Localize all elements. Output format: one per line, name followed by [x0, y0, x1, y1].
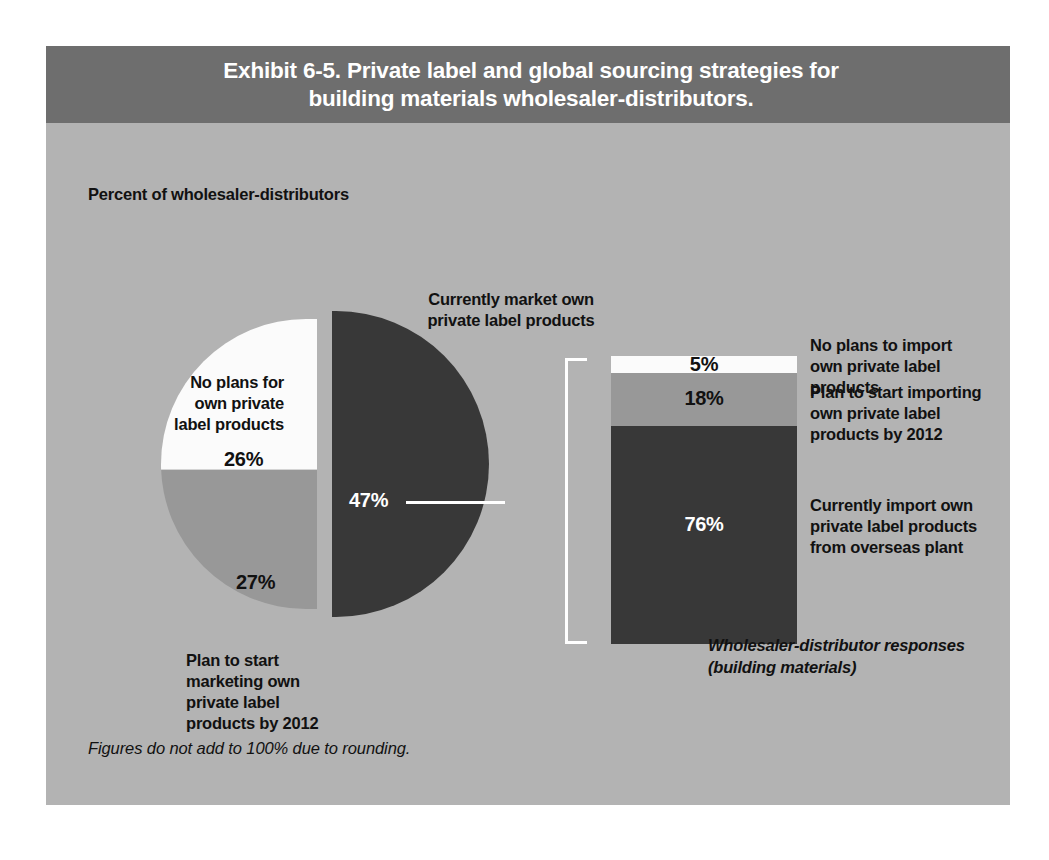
pie-label-plan-to-start-line-1: Plan to start [186, 650, 416, 671]
bar-segment-currently-import: 76% [611, 426, 797, 644]
bar-label-currently-import-line-3: from overseas plant [810, 537, 977, 558]
exhibit-header: Exhibit 6-5. Private label and global so… [46, 46, 1010, 123]
pie-label-no-plans-line-3: label products [98, 414, 284, 435]
pie-label-no-plans: No plans for own private label products [98, 372, 284, 435]
chart-caption-line-2: (building materials) [708, 656, 965, 678]
pie-label-no-plans-line-2: own private [98, 393, 284, 414]
chart-subtitle: Percent of wholesaler-distributors [88, 185, 349, 204]
pie-label-currently-market: Currently market own private label produ… [376, 289, 646, 331]
leader-line [406, 501, 505, 504]
bar-segment-plan-to-start-importing: 18% [611, 373, 797, 426]
pie-slice-currently-market [332, 311, 489, 617]
bar-label-plan-to-start-importing-line-3: products by 2012 [810, 424, 981, 445]
pie-label-plan-to-start: Plan to start marketing own private labe… [186, 650, 416, 734]
title-line-1: Exhibit 6-5. Private label and global so… [46, 57, 1010, 85]
bar-value-plan-to-start-importing: 18% [611, 387, 797, 410]
stacked-bar-chart: 5% 18% 76% [611, 356, 797, 644]
bar-label-currently-import-line-1: Currently import own [810, 495, 977, 516]
pie-value-no-plans: 26% [224, 448, 263, 471]
bar-label-plan-to-start-importing-line-1: Plan to start importing [810, 382, 981, 403]
page-title: Exhibit 6-5. Private label and global so… [46, 57, 1010, 113]
chart-caption: Wholesaler-distributor responses (buildi… [708, 634, 965, 678]
pie-label-plan-to-start-line-3: private label [186, 692, 416, 713]
title-line-2: building materials wholesaler-distributo… [46, 85, 1010, 113]
bar-label-currently-import-line-2: private label products [810, 516, 977, 537]
bar-segment-no-plans-to-import: 5% [611, 356, 797, 373]
pie-label-plan-to-start-line-4: products by 2012 [186, 713, 416, 734]
pie-label-no-plans-line-1: No plans for [98, 372, 284, 393]
bar-label-no-plans-to-import-line-1: No plans to import [810, 335, 1010, 356]
pie-value-currently-market: 47% [349, 489, 388, 512]
bar-value-currently-import: 76% [611, 513, 797, 536]
chart-caption-line-1: Wholesaler-distributor responses [708, 634, 965, 656]
pie-label-currently-market-line-1: Currently market own [376, 289, 646, 310]
bar-label-currently-import: Currently import own private label produ… [810, 495, 977, 558]
bar-label-plan-to-start-importing: Plan to start importing own private labe… [810, 382, 981, 445]
pie-label-plan-to-start-line-2: marketing own [186, 671, 416, 692]
footnote: Figures do not add to 100% due to roundi… [88, 739, 410, 758]
pie-value-plan-to-start: 27% [236, 571, 275, 594]
bar-label-plan-to-start-importing-line-2: own private label [810, 403, 981, 424]
pie-label-currently-market-line-2: private label products [376, 310, 646, 331]
pie-chart: 26% 27% 47% [151, 301, 501, 631]
exhibit-panel: Exhibit 6-5. Private label and global so… [46, 46, 1010, 805]
callout-bracket [565, 358, 587, 644]
